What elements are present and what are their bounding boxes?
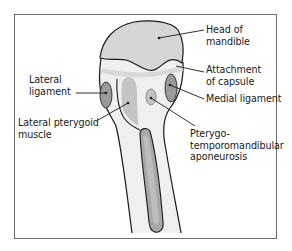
leader-dot: [169, 84, 172, 87]
label-line: Pterygo-: [190, 128, 284, 140]
leader-dot: [127, 102, 130, 105]
label-lateral-ligament: Lateral ligament: [29, 74, 71, 97]
label-line: ligament: [29, 86, 71, 98]
label-line: Lateral pterygoid: [18, 117, 99, 129]
label-head-of-mandible: Head of mandible: [206, 24, 250, 47]
label-line: Lateral: [29, 74, 71, 86]
medial-ligament: [165, 74, 177, 102]
label-medial-ligament: Medial ligament: [206, 93, 281, 105]
label-line: Attachment: [206, 64, 261, 76]
label-attachment-of-capsule: Attachment of capsule: [206, 64, 261, 87]
label-lateral-pterygoid-muscle: Lateral pterygoid muscle: [18, 117, 99, 140]
label-line: aponeurosis: [190, 151, 284, 163]
label-line: mandible: [206, 36, 250, 48]
leader-dot: [105, 92, 108, 95]
lateral-ligament: [100, 82, 112, 108]
diagram-canvas: Head of mandible Attachment of capsule M…: [0, 0, 292, 251]
label-line: Head of: [206, 24, 250, 36]
label-pterygotemporomandibular-aponeurosis: Pterygo- temporomandibular aponeurosis: [190, 128, 284, 163]
label-line: muscle: [18, 129, 99, 141]
label-line: Medial ligament: [206, 93, 281, 105]
label-line: of capsule: [206, 76, 261, 88]
label-line: temporomandibular: [190, 140, 284, 152]
leader-dot: [158, 37, 161, 40]
leader-dot: [150, 97, 153, 100]
